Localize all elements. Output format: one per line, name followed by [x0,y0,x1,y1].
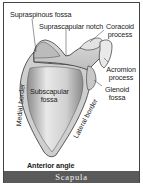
label-acromion-process: Acromion process [104,66,138,82]
label-anterior-angle: Anterior angle [27,162,74,170]
label-coracoid-process: Coracoid process [104,23,136,39]
label-subscapular-fossa: Subscapular fossa [30,88,68,104]
label-acromion-line-2: process [104,74,138,82]
label-coracoid-line-2: process [104,31,136,39]
label-suprascapular-notch: Suprascapular notch [39,23,103,31]
label-glenoid-fossa: Glenoid fossa [102,86,132,102]
figure-caption: Scapula [4,171,139,183]
label-supraspinous-fossa: Supraspinous fossa [10,11,71,19]
label-subscapular-line-2: fossa [30,96,68,104]
label-glenoid-line-2: fossa [102,94,132,102]
